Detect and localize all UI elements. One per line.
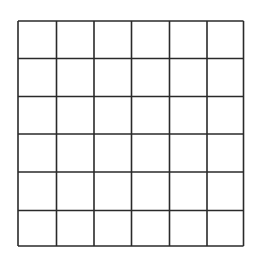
six-by-six-grid (0, 0, 257, 256)
